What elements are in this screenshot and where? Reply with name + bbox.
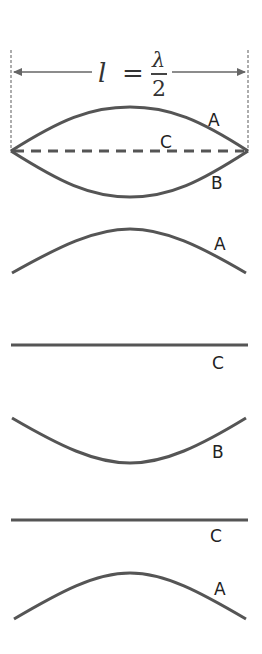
length-arrow-left <box>13 68 92 76</box>
label-panel-5: C <box>210 528 222 545</box>
curve-a-panel-2 <box>12 229 246 273</box>
formula-denominator: 2 <box>152 76 166 101</box>
formula-length-symbol: l <box>98 58 106 88</box>
curve-a-panel-6 <box>14 573 246 619</box>
label-panel-6: A <box>214 581 226 598</box>
label-panel-2: A <box>214 236 226 253</box>
label-a-top: A <box>208 112 220 129</box>
label-c-top: C <box>160 134 172 151</box>
formula-numerator: λ <box>152 48 165 72</box>
label-b-top: B <box>211 175 223 192</box>
label-panel-4: B <box>212 444 224 461</box>
formula-equals: = <box>122 58 144 88</box>
curve-b-panel-4 <box>12 418 246 463</box>
label-panel-3: C <box>212 355 224 372</box>
formula-fraction-bar <box>151 73 167 75</box>
length-formula: l = λ 2 <box>90 48 170 108</box>
length-arrow-right <box>172 68 246 76</box>
